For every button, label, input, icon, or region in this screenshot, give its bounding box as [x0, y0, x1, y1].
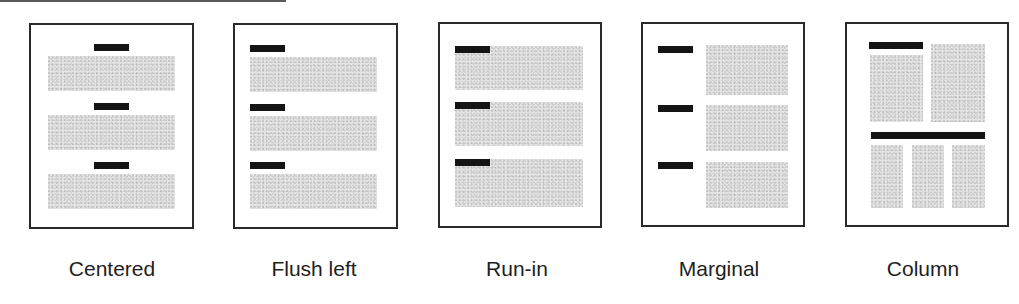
text-block: [706, 105, 788, 151]
panel-marginal: [641, 22, 805, 227]
label-run-in: Run-in: [486, 257, 548, 281]
heading-bar: [250, 104, 285, 111]
heading-bar: [94, 44, 129, 51]
label-marginal: Marginal: [679, 257, 760, 281]
text-block: [706, 162, 788, 208]
heading-bar: [94, 162, 129, 169]
text-block: [250, 57, 377, 92]
label-column: Column: [887, 257, 959, 281]
top-rule-divider: [0, 0, 286, 2]
text-block: [706, 45, 788, 95]
heading-bar: [658, 162, 693, 169]
text-block: [870, 55, 923, 122]
text-block: [48, 115, 175, 150]
heading-bar: [871, 132, 985, 139]
text-block: [455, 159, 583, 207]
heading-bar: [455, 102, 490, 109]
panel-centered: [29, 23, 194, 229]
heading-bar: [250, 162, 285, 169]
heading-bar: [250, 45, 285, 52]
text-block: [952, 145, 985, 208]
label-centered: Centered: [69, 257, 155, 281]
heading-bar: [658, 46, 693, 53]
text-block: [48, 56, 175, 91]
panel-run-in: [438, 22, 602, 228]
label-flush-left: Flush left: [271, 257, 356, 281]
heading-bar: [455, 159, 490, 166]
heading-bar: [455, 46, 490, 53]
heading-bar: [94, 103, 129, 110]
heading-bar: [869, 42, 923, 49]
panel-column: [845, 22, 1009, 227]
text-block: [250, 116, 377, 151]
text-block: [912, 145, 944, 208]
panel-flush-left: [233, 23, 398, 229]
text-block: [871, 145, 903, 208]
text-block: [250, 174, 377, 209]
text-block: [48, 174, 175, 209]
text-block: [931, 44, 985, 122]
heading-bar: [658, 105, 693, 112]
